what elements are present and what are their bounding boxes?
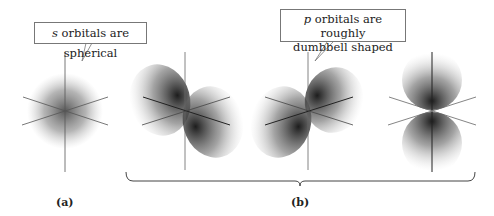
callout-p-orbitals: p orbitals are roughly dumbbell shaped bbox=[280, 9, 406, 42]
label-b: (b) bbox=[291, 196, 309, 209]
p-orbital-3 bbox=[388, 50, 476, 174]
callout-p-line2: dumbbell shaped bbox=[281, 40, 405, 54]
p-orbital-1 bbox=[122, 52, 252, 170]
label-a: (a) bbox=[56, 196, 74, 209]
p-orbital-2 bbox=[243, 52, 371, 170]
group-b-brace bbox=[126, 172, 475, 186]
callout-s-orbitals: s orbitals are spherical bbox=[34, 22, 147, 44]
s-orbital bbox=[22, 52, 108, 172]
callout-p-line1: orbitals are roughly bbox=[311, 12, 382, 40]
